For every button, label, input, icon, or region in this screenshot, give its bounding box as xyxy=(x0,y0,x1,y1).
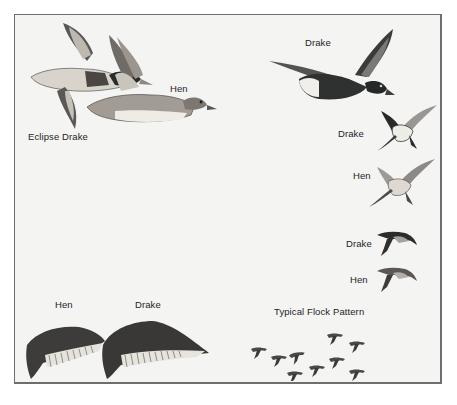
label-drake-top-right: Drake xyxy=(305,37,331,48)
small-drake-illustration xyxy=(375,229,419,257)
label-wing-drake: Drake xyxy=(135,299,161,310)
label-flock-pattern: Typical Flock Pattern xyxy=(274,306,364,317)
label-hen-top: Hen xyxy=(170,83,188,94)
hen-wing-illustration xyxy=(23,321,105,381)
small-hen-illustration xyxy=(375,265,419,293)
label-hen-underside: Hen xyxy=(353,170,371,181)
illustration-plate: Hen Eclipse Drake Drake Drake xyxy=(14,14,442,384)
hen-illustration xyxy=(87,35,217,125)
drake-underside-illustration xyxy=(375,101,445,153)
label-drake-underside: Drake xyxy=(338,128,364,139)
label-small-hen: Hen xyxy=(350,274,368,285)
drake-flying-illustration xyxy=(269,25,409,105)
hen-underside-illustration xyxy=(367,155,439,209)
drake-wing-illustration xyxy=(101,319,211,381)
label-wing-hen: Hen xyxy=(55,299,73,310)
label-small-drake: Drake xyxy=(346,238,372,249)
label-eclipse-drake: Eclipse Drake xyxy=(28,131,88,142)
flock-pattern-illustration xyxy=(249,325,399,381)
